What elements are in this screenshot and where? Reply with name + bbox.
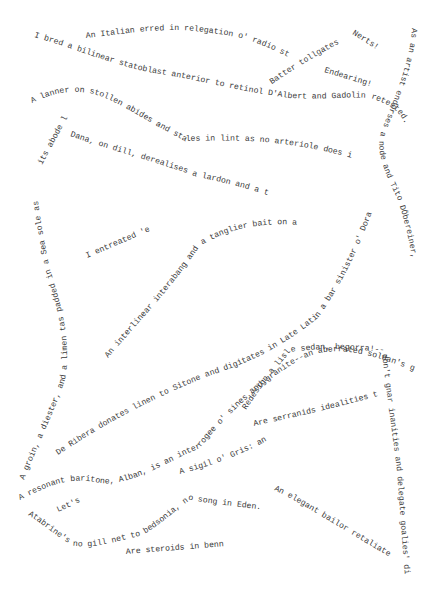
phrase-interlinear: An interlinear interabang and a tanglier… bbox=[0, 0, 302, 359]
phrase-bailor: An elegant bailor retaliated. bbox=[0, 0, 393, 558]
phrase-text: its abode leant. bbox=[0, 0, 70, 166]
phrase-text: An interlinear interabang and a tanglier… bbox=[0, 0, 302, 359]
phrase-italian: An Italian erred in relegation o' radio … bbox=[0, 0, 291, 59]
phrase-text: Endearing! bbox=[323, 65, 373, 88]
text-art-svg: An Italian erred in relegation o' radio … bbox=[0, 0, 436, 592]
phrase-text: An elegant bailor retaliated. bbox=[0, 0, 393, 558]
phrase-text: I entreated 'er. bbox=[0, 0, 151, 260]
phrase-text: A groin, a diester, and a limen tas padd… bbox=[18, 200, 70, 480]
phrase-entreated: I entreated 'er. bbox=[0, 0, 151, 260]
phrase-nerts: Nerts! bbox=[351, 28, 381, 51]
phrase-serranids: Are serranids idealities to Geseli? bbox=[0, 0, 379, 428]
phrase-atabrine: Atabrine's no gill net to bedsonia, no s… bbox=[27, 493, 262, 549]
phrase-text: Atabrine's no gill net to bedsonia, no s… bbox=[27, 493, 262, 549]
phrase-abode: its abode leant. bbox=[0, 0, 70, 166]
phrase-text: An Italian erred in relegation o' radio … bbox=[0, 0, 291, 59]
phrase-groin: A groin, a diester, and a limen tas padd… bbox=[18, 200, 70, 480]
phrase-endearing: Endearing! bbox=[323, 65, 373, 88]
phrase-text: Are serranids idealities to Geseli? bbox=[0, 0, 379, 428]
phrase-text: Nerts! bbox=[351, 28, 381, 51]
text-art-page: An Italian erred in relegation o' radio … bbox=[0, 0, 436, 592]
